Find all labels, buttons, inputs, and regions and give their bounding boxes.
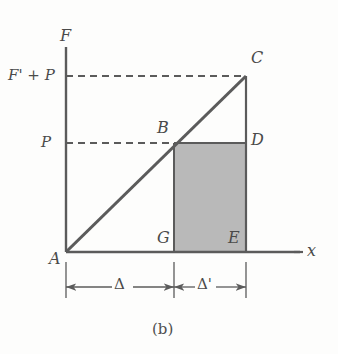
point-label-E: E [228,230,240,246]
diagram-canvas [0,0,338,354]
point-label-A: A [49,251,61,267]
dimension-label-delta-prime: Δ' [197,277,212,292]
point-label-C: C [251,50,263,66]
x-axis-label: x [307,243,316,259]
figure-container: F x F' + P P A B C D E G Δ Δ' (b) [0,0,338,354]
y-axis-label: F [60,28,71,44]
point-label-D: D [251,132,264,148]
point-label-G: G [157,230,170,246]
point-label-B: B [157,120,169,136]
dimension-label-delta: Δ [114,277,125,292]
tick-label-p: P [41,135,51,150]
tick-label-f-prime-plus-p: F' + P [8,68,55,83]
figure-caption: (b) [152,322,173,337]
